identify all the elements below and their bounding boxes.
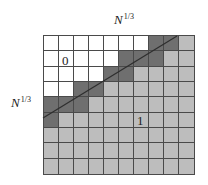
grid-cell-gray xyxy=(119,143,134,158)
grid-cell-gray xyxy=(104,97,119,112)
grid-cell-gray xyxy=(179,128,194,143)
grid-cell-gray xyxy=(179,97,194,112)
grid-cell-gray xyxy=(134,82,149,97)
grid-cell-gray xyxy=(134,159,149,174)
grid-cell-gray xyxy=(164,67,179,82)
grid-cell-gray xyxy=(104,143,119,158)
grid-cell-gray xyxy=(179,113,194,128)
grid-cell-gray xyxy=(89,113,104,128)
grid-cell-dark xyxy=(44,113,59,128)
grid-cell-gray xyxy=(74,159,89,174)
grid-cell-gray xyxy=(179,82,194,97)
grid-cell-white xyxy=(104,51,119,66)
left-label-exponent: 1/3 xyxy=(21,95,31,104)
grid-cell-gray xyxy=(74,143,89,158)
grid-cell-gray xyxy=(89,97,104,112)
grid-cell-dark xyxy=(149,36,164,51)
grid-cell-gray xyxy=(179,143,194,158)
grid-cell-gray xyxy=(149,67,164,82)
grid-cell-white xyxy=(44,67,59,82)
grid-cell-dark xyxy=(74,82,89,97)
grid-cell-gray xyxy=(119,82,134,97)
region-one-label: 1 xyxy=(137,114,144,127)
grid-cell-white xyxy=(59,67,74,82)
grid-cell-gray xyxy=(89,143,104,158)
grid-cell-gray xyxy=(149,113,164,128)
grid-cell-dark xyxy=(104,67,119,82)
grid-cell-white xyxy=(89,67,104,82)
top-label-exponent: 1/3 xyxy=(124,12,134,21)
grid-cell-gray xyxy=(104,159,119,174)
grid-cell-dark xyxy=(164,36,179,51)
grid-cell-dark xyxy=(119,51,134,66)
grid-cell-gray xyxy=(149,82,164,97)
grid-cell-white xyxy=(74,51,89,66)
grid-cell-gray xyxy=(164,51,179,66)
grid-cell-gray xyxy=(134,97,149,112)
top-dimension-label: N1/3 xyxy=(114,13,134,26)
grid-cell-gray xyxy=(179,67,194,82)
grid-cell-gray xyxy=(179,159,194,174)
grid-cell-gray xyxy=(164,97,179,112)
grid-cell-dark xyxy=(89,82,104,97)
grid-cell-gray xyxy=(119,128,134,143)
grid-cell-dark xyxy=(134,51,149,66)
grid-cell-gray xyxy=(134,143,149,158)
grid-cell-dark xyxy=(119,67,134,82)
grid-cell-gray xyxy=(119,97,134,112)
grid-cell-gray xyxy=(44,128,59,143)
left-dimension-label: N1/3 xyxy=(11,96,31,109)
grid-cell-white xyxy=(104,36,119,51)
grid-cell-gray xyxy=(119,159,134,174)
grid-cell-dark xyxy=(59,97,74,112)
grid-cell-white xyxy=(89,36,104,51)
grid-cell-gray xyxy=(164,82,179,97)
top-label-base: N xyxy=(114,12,123,27)
grid-cell-gray xyxy=(59,143,74,158)
grid-cell-gray xyxy=(119,113,134,128)
grid-cell-white xyxy=(74,36,89,51)
grid-cell-white xyxy=(44,82,59,97)
grid-cell-gray xyxy=(89,128,104,143)
grid-cell-gray xyxy=(149,159,164,174)
grid-cell-gray xyxy=(74,128,89,143)
grid-cell-gray xyxy=(164,128,179,143)
grid-cell-gray xyxy=(44,159,59,174)
grid-cell-gray xyxy=(134,128,149,143)
region-zero-label: 0 xyxy=(62,54,69,67)
left-label-base: N xyxy=(11,95,20,110)
grid-cell-dark xyxy=(149,51,164,66)
grid-cell-white xyxy=(59,36,74,51)
grid-cell-white xyxy=(89,51,104,66)
grid-cell-gray xyxy=(104,82,119,97)
grid-cell-dark xyxy=(44,97,59,112)
grid-cell-gray xyxy=(164,143,179,158)
grid-cell-white xyxy=(44,51,59,66)
grid-cell-gray xyxy=(164,159,179,174)
grid-cell-white xyxy=(134,36,149,51)
grid-cell-gray xyxy=(149,97,164,112)
grid-cell-gray xyxy=(104,113,119,128)
grid-cell-gray xyxy=(179,36,194,51)
grid-cell-gray xyxy=(179,51,194,66)
grid-cell-gray xyxy=(104,128,119,143)
grid-cell-gray xyxy=(44,143,59,158)
grid-cell-gray xyxy=(59,128,74,143)
grid-cell-white xyxy=(59,82,74,97)
grid-cell-gray xyxy=(149,143,164,158)
grid-cell-dark xyxy=(74,97,89,112)
grid-cell-gray xyxy=(164,113,179,128)
grid-cell-gray xyxy=(59,113,74,128)
grid-cell-gray xyxy=(149,128,164,143)
grid-cell-white xyxy=(44,36,59,51)
grid-cell-gray xyxy=(59,159,74,174)
grid-cell-gray xyxy=(134,67,149,82)
grid-cell-gray xyxy=(89,159,104,174)
grid-cell-white xyxy=(119,36,134,51)
grid-cell-white xyxy=(74,67,89,82)
grid-cell-gray xyxy=(74,113,89,128)
